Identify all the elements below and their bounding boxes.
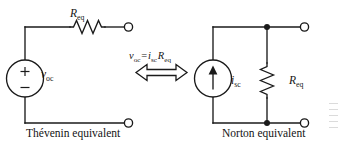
thevenin-resistor-label: Req [70, 8, 84, 20]
equivalence-double-arrow [136, 65, 187, 81]
circuit-figure: Req voc voc = isc Req isc Req Thévenin e… [0, 0, 339, 146]
equivalence-equation: voc = isc Req [129, 51, 171, 62]
norton-terminal-bottom [300, 119, 308, 127]
thevenin-terminal-bottom [124, 119, 132, 127]
norton-caption: Norton equivalent [222, 128, 305, 140]
norton-resistor-label: Req [289, 75, 303, 87]
norton-junction-dot-bottom [264, 120, 270, 126]
page-edge-artifact [329, 103, 338, 137]
thevenin-resistor-zigzag [70, 21, 105, 34]
norton-terminal-top [300, 23, 308, 31]
norton-circuit [195, 27, 301, 123]
thevenin-source-label: voc [41, 69, 53, 81]
norton-junction-dot-top [264, 24, 270, 30]
norton-source-label: isc [231, 75, 241, 87]
voltage-source-symbol [7, 60, 44, 97]
norton-resistor-zigzag [261, 63, 274, 98]
thevenin-caption: Thévenin equivalent [26, 128, 120, 140]
thevenin-terminal-top [124, 23, 132, 31]
